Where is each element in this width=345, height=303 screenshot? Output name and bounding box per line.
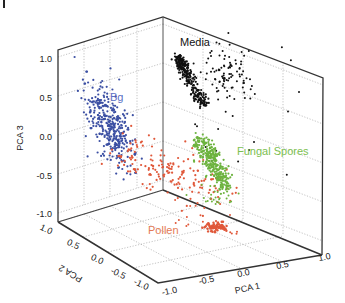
label-bg: Bg bbox=[110, 91, 123, 103]
x-tick-0.0: 0.0 bbox=[236, 267, 250, 279]
y-axis: 1.0 0.5 0.0 -0.5 -1.0 PCA 2 bbox=[38, 222, 150, 292]
z-tick-1.0: 1.0 bbox=[39, 54, 52, 64]
y-tick-neg1.0: -1.0 bbox=[132, 276, 150, 292]
x-tick-neg0.5: -0.5 bbox=[198, 274, 215, 287]
z-axis: 1.0 0.5 0.0 -0.5 -1.0 PCA 3 bbox=[15, 54, 52, 219]
x-axis-title: PCA 1 bbox=[234, 281, 261, 296]
y-axis-title: PCA 2 bbox=[57, 263, 84, 284]
x-tick-0.5: 0.5 bbox=[275, 259, 289, 271]
x-tick-1.0: 1.0 bbox=[317, 251, 331, 263]
label-fungal-spores: Fungal Spores bbox=[237, 145, 309, 157]
y-tick-neg0.5: -0.5 bbox=[109, 265, 127, 281]
z-tick-neg0.5: -0.5 bbox=[36, 171, 52, 181]
pca-3d-scatter-plot: 1.0 0.5 0.0 -0.5 -1.0 PCA 3 1.0 0.5 0.0 … bbox=[0, 0, 345, 303]
z-axis-title: PCA 3 bbox=[15, 125, 25, 151]
label-media: Media bbox=[180, 36, 211, 48]
y-tick-1.0: 1.0 bbox=[38, 222, 54, 236]
z-tick-0.0: 0.0 bbox=[39, 132, 52, 142]
x-tick-neg1.0: -1.0 bbox=[161, 285, 178, 298]
y-tick-0.0: 0.0 bbox=[89, 252, 105, 266]
z-tick-neg1.0: -1.0 bbox=[36, 209, 52, 219]
y-tick-0.5: 0.5 bbox=[65, 237, 81, 251]
z-tick-0.5: 0.5 bbox=[39, 93, 52, 103]
label-pollen: Pollen bbox=[148, 224, 179, 236]
